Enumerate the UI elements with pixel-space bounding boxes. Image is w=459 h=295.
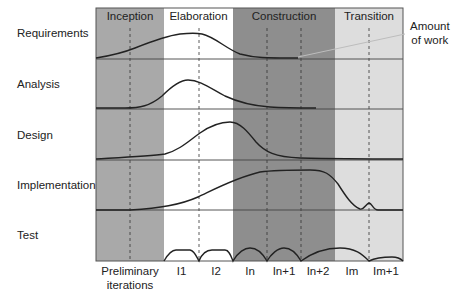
discipline-label-analysis: Analysis	[17, 78, 60, 90]
phase-bg-construction	[233, 8, 335, 261]
phase-label-elaboration: Elaboration	[164, 10, 233, 22]
annotation-line-2: of work	[410, 33, 450, 47]
discipline-label-design: Design	[17, 129, 53, 141]
phase-bg-inception	[96, 8, 164, 261]
iteration-label-im-plus-1: Im+1	[369, 264, 403, 278]
annotation-amount-of-work: Amount of work	[410, 19, 450, 47]
discipline-label-implementation: Implementation	[17, 179, 96, 191]
iteration-label-i2: I2	[199, 264, 233, 278]
iteration-label-in-plus-1: In+1	[267, 264, 301, 278]
iteration-label-preliminary: Preliminary iterations	[96, 264, 164, 292]
workflow-diagram	[0, 0, 459, 295]
phase-label-inception: Inception	[96, 10, 164, 22]
discipline-label-test: Test	[17, 229, 38, 241]
iteration-label-im: Im	[335, 264, 369, 278]
phase-label-transition: Transition	[335, 10, 403, 22]
iteration-label-in: In	[233, 264, 267, 278]
phase-label-construction: Construction	[233, 10, 335, 22]
iteration-label-i1: I1	[164, 264, 199, 278]
discipline-label-requirements: Requirements	[17, 27, 89, 39]
annotation-line-1: Amount	[410, 19, 450, 33]
phase-bg-transition	[335, 8, 403, 261]
iteration-label-in-plus-2: In+2	[301, 264, 335, 278]
